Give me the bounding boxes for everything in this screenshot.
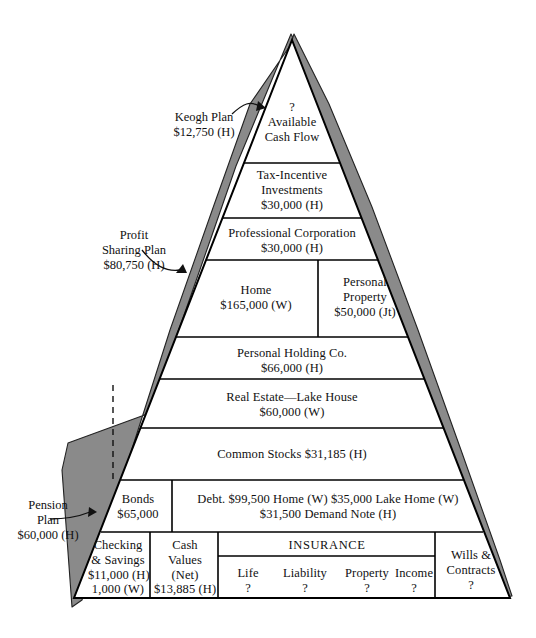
pyramid-body (74, 40, 510, 598)
profit-sharing-amount: $80,750 (H) (76, 258, 192, 273)
pyramid-diagram: ? Available Cash Flow Tax-Incentive Inve… (0, 0, 536, 638)
profit-sharing-line2: Sharing Plan (76, 243, 192, 258)
pension-plan-line2: Plan (0, 513, 96, 528)
keogh-plan-amount: $12,750 (H) (152, 125, 256, 140)
pension-plan-amount: $60,000 (H) (0, 528, 96, 543)
pension-plan-line1: Pension (0, 498, 96, 513)
callout-profit-sharing-plan: Profit Sharing Plan $80,750 (H) (76, 228, 192, 272)
callout-pension-plan: Pension Plan $60,000 (H) (0, 498, 96, 542)
pyramid-graphic (0, 0, 536, 638)
callout-keogh-plan: Keogh Plan $12,750 (H) (152, 110, 256, 140)
profit-sharing-line1: Profit (76, 228, 192, 243)
keogh-plan-name: Keogh Plan (152, 110, 256, 125)
